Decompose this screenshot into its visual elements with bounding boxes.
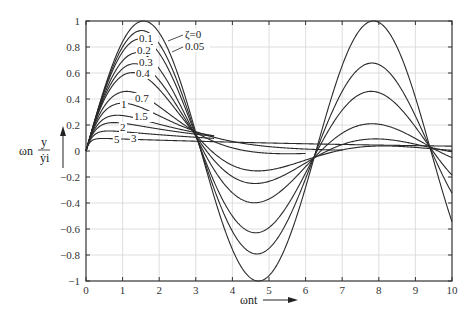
impulse-response-chart: 01234567891010.80.60.40.20−0.2−0.4−0.6−0… bbox=[0, 0, 472, 327]
x-tick-label: 8 bbox=[376, 284, 382, 296]
curve-label: 5 bbox=[114, 133, 120, 145]
y-tick-label: 0.8 bbox=[66, 41, 80, 53]
curve-label: 1.5 bbox=[134, 110, 148, 122]
y-tick-label: 0.4 bbox=[66, 93, 80, 105]
x-label-text: ωnt bbox=[240, 293, 258, 307]
curve-label: 0.05 bbox=[185, 40, 205, 52]
y-label-denominator: ẏi bbox=[40, 151, 50, 165]
y-label-numerator: y bbox=[41, 135, 47, 149]
leader-line bbox=[172, 47, 183, 52]
x-tick-label: 9 bbox=[413, 284, 419, 296]
x-tick-label: 10 bbox=[447, 284, 459, 296]
y-tick-label: −0.8 bbox=[60, 249, 80, 261]
curve-label: 3 bbox=[131, 132, 137, 144]
y-tick-label: −1 bbox=[68, 275, 80, 287]
curve-label: 0.2 bbox=[137, 44, 151, 56]
y-tick-label: 0 bbox=[75, 145, 81, 157]
curve-label: 0.4 bbox=[136, 67, 150, 79]
x-tick-label: 0 bbox=[83, 284, 89, 296]
x-tick-label: 5 bbox=[266, 284, 272, 296]
y-tick-label: 1 bbox=[75, 15, 81, 27]
y-tick-label: −0.4 bbox=[60, 197, 80, 209]
x-tick-label: 2 bbox=[156, 284, 162, 296]
x-tick-label: 3 bbox=[193, 284, 199, 296]
y-tick-label: 0.2 bbox=[66, 119, 80, 131]
x-tick-label: 1 bbox=[120, 284, 126, 296]
x-arrow-head-icon bbox=[288, 297, 298, 303]
x-tick-label: 7 bbox=[339, 284, 345, 296]
curve-label: 0.1 bbox=[139, 32, 153, 44]
y-axis-label: ωn y ẏi bbox=[19, 126, 66, 168]
curve-label: 2 bbox=[120, 121, 126, 133]
x-tick-label: 6 bbox=[303, 284, 309, 296]
y-arrow-head-icon bbox=[60, 126, 66, 136]
y-tick-label: −0.6 bbox=[60, 223, 80, 235]
x-tick-label: 4 bbox=[230, 284, 236, 296]
leader-line bbox=[168, 35, 183, 41]
y-tick-label: 0.6 bbox=[66, 67, 80, 79]
curve-label: 0.7 bbox=[135, 92, 149, 104]
y-tick-label: −0.2 bbox=[60, 171, 80, 183]
curve-label: 1 bbox=[121, 98, 127, 110]
y-label-omega: ωn bbox=[19, 144, 33, 158]
